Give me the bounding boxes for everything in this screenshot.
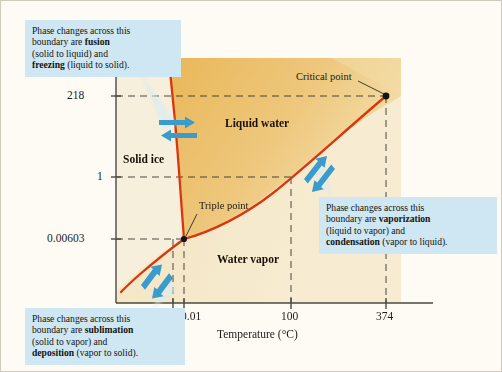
y-tick-label-1: 1 xyxy=(97,170,103,182)
callout-vaporization-line-3: (liquid to vapor) and xyxy=(326,225,490,236)
callout-vaporization-line-2: boundary are vaporization xyxy=(326,213,490,224)
callout-sublimation-line-2: boundary are sublimation xyxy=(32,324,178,335)
x-axis-title: Temperature (°C) xyxy=(217,328,298,340)
callout-vaporization-line-1: Phase changes across this xyxy=(326,202,490,213)
y-tick-label-218: 218 xyxy=(67,89,84,101)
callout-sublimation: Phase changes across this boundary are s… xyxy=(25,308,185,365)
region-label-water-vapor: Water vapor xyxy=(217,253,279,265)
x-tick-label-100: 100 xyxy=(281,310,298,322)
x-tick-label-374: 374 xyxy=(376,310,393,322)
callout-fusion-line-1: Phase changes across this xyxy=(32,25,174,36)
region-label-liquid-water: Liquid water xyxy=(225,117,289,129)
triple-point-marker xyxy=(181,236,187,242)
region-label-solid-ice: Solid ice xyxy=(123,153,164,165)
callout-vaporization-line-4: condensation (vapor to liquid). xyxy=(326,236,490,247)
triple-point-label: Triple point xyxy=(199,200,249,211)
callout-fusion: Phase changes across this boundary are f… xyxy=(25,20,181,77)
callout-sublimation-line-3: (solid to vapor) and xyxy=(32,336,178,347)
y-tick-label-000603: 0.00603 xyxy=(47,232,84,244)
phase-diagram-figure: 218 1 0.00603 0 0.01 100 374 Temperature… xyxy=(0,0,502,372)
callout-fusion-line-2: boundary are fusion xyxy=(32,36,174,47)
callout-fusion-line-4: freezing (liquid to solid). xyxy=(32,59,174,70)
callout-sublimation-line-4: deposition (vapor to solid). xyxy=(32,347,178,358)
callout-sublimation-line-1: Phase changes across this xyxy=(32,313,178,324)
callout-vaporization: Phase changes across this boundary are v… xyxy=(319,197,497,254)
callout-fusion-line-3: (solid to liquid) and xyxy=(32,48,174,59)
critical-point-label: Critical point xyxy=(296,71,352,82)
